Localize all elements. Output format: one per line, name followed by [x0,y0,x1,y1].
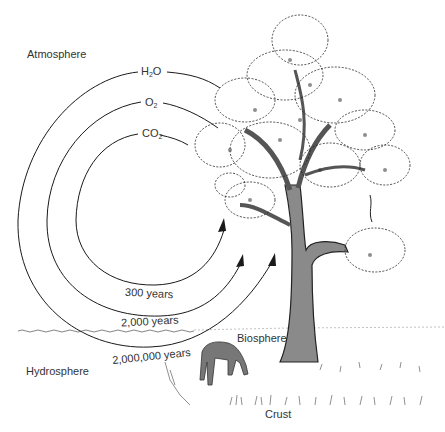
tree-trunk [280,185,348,362]
atmosphere-label: Atmosphere [27,48,86,60]
crust-label: Crust [265,408,291,420]
h2o-cycle-arc [18,72,272,347]
biosphere-label: Biosphere [237,332,287,344]
co2-label: CO2 [142,127,162,140]
co2-period-label: 300 years [125,286,174,301]
h2o-label: H2O [141,65,161,78]
hydrosphere-label: Hydrosphere [26,365,89,377]
deer [200,342,248,385]
tree [240,70,365,362]
co2-arrowhead [218,218,226,232]
o2-arrowhead [236,254,244,267]
h2o-arrowhead [268,253,276,266]
o2-label: O2 [145,96,157,109]
co2-cycle-arc [76,134,224,285]
water-surface-line [18,330,194,332]
